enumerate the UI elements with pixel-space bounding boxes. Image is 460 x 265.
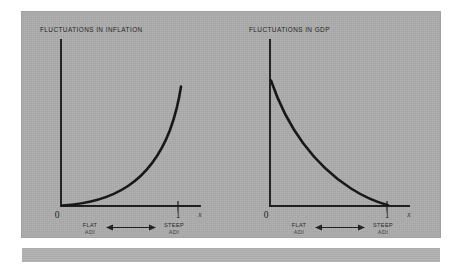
arrow-head-right-inflation: [149, 224, 156, 230]
annotation-arrow-gdp: [231, 12, 440, 237]
annotation-steep-label-inflation: STEEP: [164, 222, 184, 228]
annotation-arrow-inflation: [22, 12, 231, 237]
annotation-steep-sublabel-inflation: ADI: [159, 229, 189, 236]
chart-fluctuations-in-gdp: FLUCTUATIONS IN GDP 0 1 x FLAT ADI: [231, 12, 440, 237]
annotation-steep-sublabel-gdp: ADI: [368, 229, 398, 236]
annotation-steep-label-gdp: STEEP: [373, 222, 393, 228]
figure-root: FLUCTUATIONS IN INFLATION 0 1 x FLAT ADI: [0, 0, 460, 265]
arrow-head-left-gdp: [315, 224, 322, 230]
arrow-head-left-inflation: [106, 224, 113, 230]
arrow-head-right-gdp: [358, 224, 365, 230]
chart-fluctuations-in-inflation: FLUCTUATIONS IN INFLATION 0 1 x FLAT ADI: [22, 12, 231, 237]
annotation-steep-adi-gdp: STEEP ADI: [368, 222, 398, 236]
bottom-bar: [22, 248, 440, 262]
figure-panel: FLUCTUATIONS IN INFLATION 0 1 x FLAT ADI: [22, 12, 440, 237]
annotation-steep-adi-inflation: STEEP ADI: [159, 222, 189, 236]
